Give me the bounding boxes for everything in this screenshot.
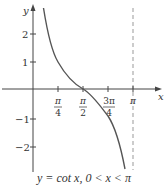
x-tick-label-pi-over-4: π 4: [54, 96, 62, 118]
y-tick-label-neg2: −2: [15, 142, 30, 153]
x-tick-label-3pi-over-4: 3π: [103, 96, 115, 107]
y-axis-arrow-icon: [31, 4, 36, 11]
x-tick-label-pi-over-2: π 2: [79, 96, 87, 118]
svg-text:4: 4: [55, 108, 61, 118]
y-tick-label-neg1: −1: [15, 114, 30, 125]
svg-text:π: π: [54, 96, 62, 106]
svg-text:3π: 3π: [103, 96, 115, 106]
svg-text:π: π: [79, 96, 87, 106]
svg-text:2: 2: [80, 108, 86, 118]
y-tick-label-2: 2: [22, 29, 28, 40]
y-tick-label-1: 1: [22, 57, 28, 68]
x-tick-label-pi: π: [129, 96, 137, 106]
y-axis-label: y: [22, 5, 29, 16]
caption-equation: y = cot x, 0 < x < π: [37, 171, 131, 185]
x-axis-label: x: [158, 91, 164, 102]
chart-canvas: x y 2 1 −1 −2 π 4 π 2 3π 4 π: [0, 0, 168, 193]
chart-caption: y = cot x, 0 < x < π: [0, 171, 168, 186]
